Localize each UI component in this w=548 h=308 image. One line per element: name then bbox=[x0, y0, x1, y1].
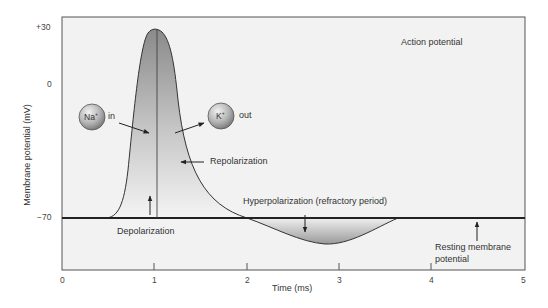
repolarization-label: Repolarization bbox=[210, 156, 268, 166]
sodium-charge: + bbox=[95, 111, 98, 117]
x-axis-label: Time (ms) bbox=[272, 283, 312, 293]
x-tick-1: 1 bbox=[152, 275, 157, 285]
x-tick-5: 5 bbox=[521, 275, 526, 285]
chart-title: Action potential bbox=[401, 37, 463, 47]
depolarization-label: Depolarization bbox=[117, 226, 175, 236]
sodium-symbol: Na bbox=[84, 112, 95, 122]
sodium-ion-label: Na+ bbox=[84, 111, 98, 122]
x-tick-4: 4 bbox=[429, 275, 434, 285]
x-tick-2: 2 bbox=[245, 275, 250, 285]
y-tick-0: 0 bbox=[47, 79, 52, 89]
x-tick-3: 3 bbox=[337, 275, 342, 285]
y-tick-minus70: −70 bbox=[37, 212, 51, 222]
potassium-charge: + bbox=[222, 110, 225, 116]
sodium-direction-label: in bbox=[108, 111, 115, 121]
resting-potential-label-line1: Resting membrane bbox=[435, 242, 511, 252]
y-axis-label: Membrane potential (mV) bbox=[22, 100, 32, 210]
hyperpolarization-label: Hyperpolarization (refractory period) bbox=[243, 196, 387, 206]
potassium-ion-label: K+ bbox=[216, 110, 225, 121]
potassium-direction-label: out bbox=[239, 110, 252, 120]
resting-potential-label-line2: potential bbox=[435, 254, 469, 264]
x-tick-0: 0 bbox=[60, 275, 65, 285]
y-tick-plus30: +30 bbox=[36, 22, 50, 32]
